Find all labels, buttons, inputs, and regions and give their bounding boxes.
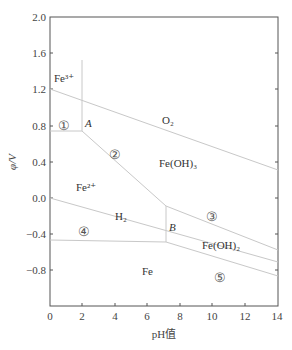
svg-text:−0.8: −0.8 [26,264,46,276]
x-tick-labels: 0 2 4 6 8 10 12 14 [47,310,283,322]
y-axis-label: φ/V [6,153,18,170]
label-circle-4: ④ [78,224,90,239]
svg-text:2: 2 [79,310,85,322]
label-circle-2: ② [109,147,121,162]
svg-text:6: 6 [144,310,150,322]
label-circle-1: ① [58,118,70,133]
svg-text:2.0: 2.0 [32,11,46,23]
svg-text:0: 0 [47,310,53,322]
label-a: A [84,117,92,129]
svg-text:0.4: 0.4 [32,156,46,168]
svg-text:14: 14 [272,310,284,322]
svg-text:0.8: 0.8 [32,120,46,132]
svg-text:12: 12 [240,310,251,322]
label-circle-5: ⑤ [214,270,226,285]
label-fe: Fe [142,265,153,277]
line-2 [82,131,166,206]
pourbaix-diagram: 2.0 1.6 1.2 0.8 0.4 0.0 −0.4 −0.8 0 2 4 … [0,0,292,350]
svg-text:−0.4: −0.4 [26,228,46,240]
y-tick-labels: 2.0 1.6 1.2 0.8 0.4 0.0 −0.4 −0.8 [26,11,46,276]
label-o2: O₂ [162,114,174,126]
label-feoh2: Fe(OH)₂ [202,239,240,252]
svg-text:4: 4 [112,310,118,322]
line-4 [50,240,166,242]
svg-text:10: 10 [207,310,219,322]
label-h2: H₂ [115,210,127,222]
x-axis-label: pH值 [152,328,176,340]
label-b: B [169,221,176,233]
svg-text:1.6: 1.6 [32,47,46,59]
label-circle-3: ③ [206,209,218,224]
svg-text:0.0: 0.0 [32,192,46,204]
svg-text:8: 8 [177,310,183,322]
label-fe3: Fe³⁺ [54,72,74,84]
label-feoh3: Fe(OH)₃ [159,157,197,170]
label-fe2: Fe²⁺ [76,181,96,193]
svg-text:1.2: 1.2 [32,83,46,95]
